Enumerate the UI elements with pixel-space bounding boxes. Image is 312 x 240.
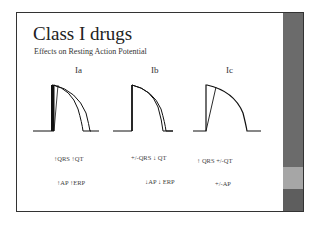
sidebar-band-light <box>283 167 303 189</box>
decorative-sidebar <box>283 13 303 211</box>
slide: Class I drugs Effects on Resting Action … <box>16 12 304 212</box>
effect-ia-line2: ↑AP ↑ERP <box>57 179 85 186</box>
column-label-ic: Ic <box>226 65 233 75</box>
column-label-ia: Ia <box>75 65 82 75</box>
effect-ib-line1: +/-QRS ↓ QT <box>131 154 166 161</box>
effect-ib-line2: ↓AP ↓ ERP <box>145 178 175 185</box>
slide-title: Class I drugs <box>33 23 132 45</box>
column-label-ib: Ib <box>151 65 159 75</box>
effect-ia-line1: ↑QRS ↑QT <box>54 155 83 162</box>
action-potential-curve-ib <box>113 79 183 135</box>
effect-ic-line1: ↑ QRS +/-QT <box>197 157 232 164</box>
effect-ic-line2: +/-AP <box>215 180 231 187</box>
slide-subtitle: Effects on Resting Action Potential <box>34 47 147 56</box>
sidebar-band-dark <box>283 189 303 211</box>
action-potential-curve-ia <box>33 79 103 135</box>
action-potential-curve-ic <box>189 79 269 135</box>
